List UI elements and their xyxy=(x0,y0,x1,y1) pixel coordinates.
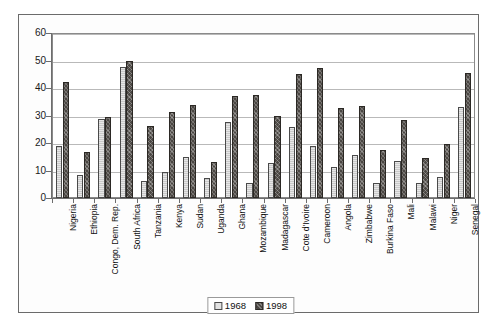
legend-item-1998: 1998 xyxy=(255,300,287,311)
x-axis-tick xyxy=(306,199,307,203)
bar-1968-mozambique xyxy=(246,183,252,198)
x-axis-tick xyxy=(412,199,413,203)
bar-1968-burkina-faso xyxy=(373,183,379,198)
x-axis-tick xyxy=(242,199,243,203)
x-axis-tick xyxy=(433,199,434,203)
x-axis-category-label: Madagascar xyxy=(278,204,287,251)
bar-1998-cameroon xyxy=(317,68,323,198)
bar-1968-tanzania xyxy=(141,181,147,198)
bar-1998-madagascar xyxy=(274,116,280,198)
bar-1998-zimbabwe xyxy=(359,106,365,198)
x-axis-category-label-text: Burkina Faso xyxy=(386,204,395,254)
x-axis-category-label-text: Tanzania xyxy=(154,204,163,238)
x-axis-category-label-text: Kenya xyxy=(175,204,184,228)
y-axis-tick-label: 0 xyxy=(2,193,46,203)
bar-1998-ethiopia xyxy=(84,152,90,198)
x-axis-tick xyxy=(285,199,286,203)
bar-1998-south-africa xyxy=(126,61,132,199)
x-axis-category-label-text: Sudan xyxy=(196,204,205,229)
bar-1998-congo-dem-rep xyxy=(105,117,111,198)
bar-1968-congo-dem-rep xyxy=(98,119,104,198)
bar-1968-senegal xyxy=(458,107,464,198)
bar-1998-mali xyxy=(401,120,407,198)
y-axis-tick-label: 20 xyxy=(2,138,46,148)
bar-1998-niger xyxy=(444,144,450,198)
x-axis-category-label: Tanzania xyxy=(151,204,160,238)
x-axis-category-label-text: Uganda xyxy=(217,204,226,234)
bar-1998-mozambique xyxy=(253,95,259,198)
legend-label-1968: 1968 xyxy=(225,300,246,311)
x-axis-tick xyxy=(179,199,180,203)
bar-1998-ghana xyxy=(232,96,238,198)
bar-1998-senegal xyxy=(465,73,471,198)
bar-1968-uganda xyxy=(204,178,210,198)
bar-1968-kenya xyxy=(162,172,168,198)
x-axis-category-label: Cameroon xyxy=(320,204,329,244)
x-axis-tick xyxy=(390,199,391,203)
bars-layer xyxy=(52,33,475,198)
x-axis-tick xyxy=(52,199,53,203)
x-axis-tick xyxy=(94,199,95,203)
bar-1998-cote-d-ivoire xyxy=(296,74,302,198)
x-axis-category-label-text: Senegal xyxy=(471,204,480,235)
x-axis-category-label: Zimbabwe xyxy=(362,204,371,243)
x-axis-category-label-text: Angola xyxy=(344,204,353,230)
y-axis-tick-label: 60 xyxy=(2,28,46,38)
bar-1968-angola xyxy=(331,167,337,198)
x-axis-category-label: Nigeria xyxy=(66,204,75,231)
bar-1968-malawi xyxy=(416,183,422,198)
x-axis-category-label-text: Ethiopia xyxy=(90,204,99,235)
legend-label-1998: 1998 xyxy=(266,300,287,311)
bar-1968-cameroon xyxy=(310,146,316,198)
x-axis-tick xyxy=(200,199,201,203)
x-axis-category-label: Sudan xyxy=(193,204,202,229)
x-axis-category-label: South Africa xyxy=(130,204,139,250)
x-axis-category-label: Malawi xyxy=(426,204,435,230)
bar-1968-south-africa xyxy=(120,67,126,198)
x-axis-tick xyxy=(327,199,328,203)
x-axis-category-label: Mozambique xyxy=(256,204,265,253)
bar-1968-zimbabwe xyxy=(352,155,358,198)
bar-1998-kenya xyxy=(169,112,175,198)
bar-1968-cote-d-ivoire xyxy=(289,127,295,198)
x-axis-category-label: Cote d'Ivoire xyxy=(299,204,308,251)
y-axis-tick-labels: 0102030405060 xyxy=(0,0,46,331)
legend-swatch-1998-icon xyxy=(255,302,263,310)
x-axis-category-label: Burkina Faso xyxy=(383,204,392,254)
bar-1968-ethiopia xyxy=(77,175,83,198)
x-axis-tick xyxy=(73,199,74,203)
legend-swatch-1968-icon xyxy=(214,302,222,310)
x-axis-category-label-text: Ghana xyxy=(238,204,247,230)
x-axis-category-label-text: Niger xyxy=(450,204,459,224)
x-axis-category-label-text: South Africa xyxy=(133,204,142,250)
x-axis-category-label-text: Nigeria xyxy=(69,204,78,231)
x-axis-category-label-text: Mali xyxy=(407,204,416,220)
x-axis-category-label-text: Zimbabwe xyxy=(365,204,374,243)
x-axis-category-label: Angola xyxy=(341,204,350,230)
x-axis-tick xyxy=(348,199,349,203)
bar-1998-nigeria xyxy=(63,82,69,198)
x-axis-tick xyxy=(158,199,159,203)
x-axis-category-label-text: Cote d'Ivoire xyxy=(302,204,311,251)
x-axis-category-label-text: Cameroon xyxy=(323,204,332,244)
y-axis-tick-label: 40 xyxy=(2,83,46,93)
bar-1998-sudan xyxy=(190,105,196,199)
x-axis-category-label: Uganda xyxy=(214,204,223,234)
x-axis-category-label: Ethiopia xyxy=(87,204,96,235)
x-axis-category-label-text: Mozambique xyxy=(259,204,268,253)
bar-1998-burkina-faso xyxy=(380,150,386,198)
y-axis-tick-label: 30 xyxy=(2,111,46,121)
x-axis-category-label: Senegal xyxy=(468,204,477,235)
bar-1968-mali xyxy=(394,161,400,198)
bar-1998-angola xyxy=(338,108,344,198)
legend-item-1968: 1968 xyxy=(214,300,246,311)
x-axis-category-label: Kenya xyxy=(172,204,181,228)
x-axis-category-labels: NigeriaEthiopiaCongo, Dem. Rep.South Afr… xyxy=(52,204,475,290)
bar-1998-malawi xyxy=(422,158,428,198)
bar-1968-niger xyxy=(437,177,443,198)
x-axis-category-label: Niger xyxy=(447,204,456,224)
bar-1968-nigeria xyxy=(56,146,62,198)
x-axis-category-label: Mali xyxy=(404,204,413,220)
bar-1998-uganda xyxy=(211,162,217,198)
x-axis-category-label-text: Malawi xyxy=(429,204,438,230)
